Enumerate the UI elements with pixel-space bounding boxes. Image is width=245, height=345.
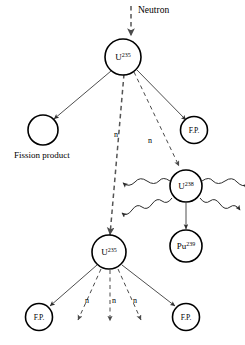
neutron-path-u235top-to-u235second [110, 74, 124, 235]
u238-mass-number: 238 [185, 181, 194, 187]
neutron-label-n3: n [85, 296, 89, 305]
fission-product-left-circle [28, 115, 58, 145]
gamma-wave-left-to-u235second [122, 198, 172, 214]
fission-diagram-canvas: Neutron n n U235 Fission product [0, 0, 245, 345]
neutron-label-n1: n [114, 130, 118, 139]
fp-bottom-left-label: F.P. [34, 313, 45, 322]
neutron-path-u235top-to-u238 [134, 72, 179, 166]
u235-top-mass-number: 235 [122, 52, 131, 58]
u235-second-mass-number: 235 [108, 247, 117, 253]
line-u235top-to-fission-product [54, 71, 111, 119]
fission-product-caption: Fission product [14, 150, 70, 160]
fission-chain-diagram: Neutron n n U235 Fission product [0, 0, 245, 345]
neutron-label: Neutron [138, 5, 169, 15]
node-fission-product-left: Fission product [14, 115, 70, 160]
fp-bottom-right-label: F.P. [181, 313, 192, 322]
pu239-mass-number: 239 [186, 241, 195, 247]
second-fission-lines: n n n [50, 265, 175, 321]
node-pu239: Pu239 [170, 230, 202, 262]
line-u235second-to-fp-bottom-left [50, 265, 97, 306]
node-u235-second: U235 [92, 235, 126, 269]
neutron-label-n2: n [148, 136, 152, 145]
top-fission-lines: n n [54, 70, 186, 235]
node-fp-right-top: F.P. [181, 117, 208, 144]
line-u235second-to-fp-bottom-right [122, 265, 175, 306]
fp-right-top-label: F.P. [189, 126, 200, 135]
node-u238: U238 [170, 170, 202, 202]
neutron-path-second-left [78, 269, 101, 320]
node-fp-bottom-right: F.P. [173, 304, 200, 331]
gamma-wave-upper-left-outward [123, 179, 170, 186]
line-u235top-to-fp-right [137, 70, 186, 120]
gamma-wave-upper-right-outward [202, 179, 245, 186]
incoming-neutron-group: Neutron [131, 5, 169, 36]
neutron-label-n5: n [133, 296, 137, 305]
node-fp-bottom-left: F.P. [26, 304, 53, 331]
gamma-wave-right-outward [200, 198, 240, 210]
node-u235-top: U235 [105, 39, 141, 75]
neutron-label-n4: n [112, 296, 116, 305]
